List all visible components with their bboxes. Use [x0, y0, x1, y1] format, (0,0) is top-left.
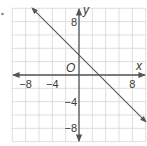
x-axis-label: x — [135, 59, 143, 73]
coordinate-plane: x y O −8−488−4−8 — [0, 0, 147, 146]
line-series — [32, 8, 145, 121]
origin-label: O — [66, 61, 75, 75]
y-tick-label: 8 — [71, 16, 77, 28]
coordinate-plane-figure: x y O −8−488−4−8 — [0, 0, 147, 146]
y-axis-label: y — [82, 3, 90, 17]
x-tick-label: −8 — [19, 78, 32, 90]
x-tick-label: 8 — [129, 78, 135, 90]
y-tick-label: −4 — [64, 96, 77, 108]
plotted-line — [32, 8, 145, 121]
y-tick-label: −8 — [64, 122, 77, 134]
axes — [13, 9, 144, 140]
problem-bullet — [1, 13, 4, 16]
x-tick-label: −4 — [46, 78, 59, 90]
axis-labels: x y O — [66, 3, 143, 75]
